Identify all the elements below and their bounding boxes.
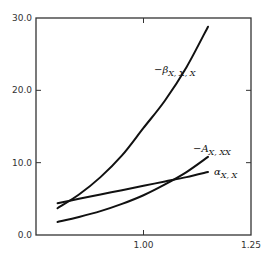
chart: 0.010.020.030.0 1.001.25 −βX, X, X −AX, …	[0, 0, 272, 262]
y-tick-label: 10.0	[12, 158, 32, 168]
y-tick-label: 30.0	[12, 13, 32, 23]
curve-beta	[58, 27, 209, 209]
label-alpha: αX, X	[214, 166, 238, 180]
label-beta: −βX, X, X	[154, 64, 196, 78]
curve-alpha	[58, 172, 209, 203]
x-tick-label: 1.25	[241, 240, 261, 250]
y-axis-ticks: 0.010.020.030.0	[12, 13, 251, 240]
x-axis-ticks: 1.001.25	[133, 18, 261, 250]
curves	[58, 27, 209, 222]
x-tick-label: 1.00	[133, 240, 153, 250]
label-a: −AX, XX	[193, 143, 231, 157]
y-tick-label: 0.0	[18, 230, 33, 240]
y-tick-label: 20.0	[12, 85, 32, 95]
curve-a	[58, 157, 209, 222]
